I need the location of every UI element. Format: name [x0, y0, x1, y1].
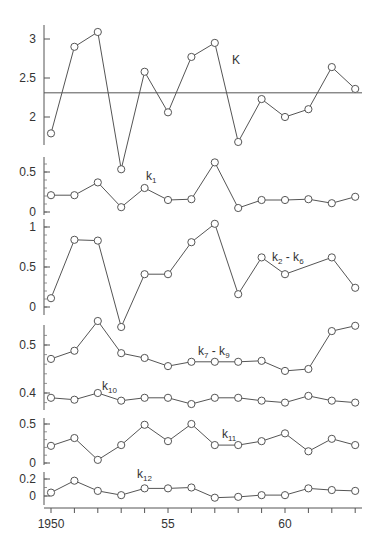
series-k10: k10: [47, 379, 358, 408]
data-point-marker: [258, 254, 265, 261]
y-tick-label: 0: [29, 456, 36, 470]
series-line: [51, 32, 355, 169]
data-point-marker: [235, 493, 242, 500]
data-point-marker: [188, 358, 195, 365]
data-point-marker: [281, 196, 288, 203]
data-point-marker: [258, 196, 265, 203]
data-point-marker: [118, 204, 125, 211]
data-point-marker: [164, 271, 171, 278]
data-point-marker: [71, 477, 78, 484]
data-point-marker: [305, 448, 312, 455]
series-label: K: [232, 53, 240, 67]
data-point-marker: [352, 322, 359, 329]
y-tick-label: 0.2: [19, 472, 36, 486]
data-point-marker: [164, 363, 171, 370]
data-point-marker: [281, 271, 288, 278]
data-point-marker: [71, 434, 78, 441]
data-point-marker: [352, 284, 359, 291]
data-point-marker: [94, 389, 101, 396]
panel-k2-k6: 00.51k2 - k6: [19, 219, 358, 331]
data-point-marker: [141, 394, 148, 401]
data-point-marker: [94, 487, 101, 494]
data-point-marker: [47, 355, 54, 362]
data-point-marker: [94, 237, 101, 244]
series-k12: k12: [47, 467, 358, 501]
data-point-marker: [47, 442, 54, 449]
panel-k11: 00.5k11: [19, 417, 358, 470]
data-point-marker: [352, 399, 359, 406]
data-point-marker: [164, 109, 171, 116]
y-tick-label: 0: [29, 205, 36, 219]
data-point-marker: [211, 358, 218, 365]
data-point-marker: [141, 68, 148, 75]
data-point-marker: [211, 394, 218, 401]
multi-panel-line-chart: 22.53K00.5k100.51k2 - k60.40.5k7 - k9k10…: [0, 0, 381, 556]
y-tick-label: 0.5: [19, 165, 36, 179]
data-point-marker: [352, 85, 359, 92]
data-point-marker: [305, 485, 312, 492]
data-point-marker: [118, 492, 125, 499]
data-point-marker: [235, 358, 242, 365]
series-k7-k9: k7 - k9: [47, 317, 358, 374]
data-point-marker: [164, 438, 171, 445]
data-point-marker: [281, 492, 288, 499]
y-tick-label: 2.5: [19, 71, 36, 85]
series-label: k10: [102, 379, 117, 395]
data-point-marker: [71, 43, 78, 50]
data-point-marker: [352, 441, 359, 448]
series-k11: k11: [47, 420, 358, 463]
data-point-marker: [47, 192, 54, 199]
data-point-marker: [47, 394, 54, 401]
data-point-marker: [328, 254, 335, 261]
data-point-marker: [94, 28, 101, 35]
data-point-marker: [188, 239, 195, 246]
data-point-marker: [328, 200, 335, 207]
data-point-marker: [352, 193, 359, 200]
data-point-marker: [188, 196, 195, 203]
data-point-marker: [71, 236, 78, 243]
data-point-marker: [164, 394, 171, 401]
data-point-marker: [305, 106, 312, 113]
series-k1: k1: [47, 159, 358, 212]
data-point-marker: [328, 486, 335, 493]
data-point-marker: [118, 441, 125, 448]
data-point-marker: [71, 396, 78, 403]
series-K: K: [47, 28, 358, 172]
data-point-marker: [118, 323, 125, 330]
data-point-marker: [118, 397, 125, 404]
data-point-marker: [164, 485, 171, 492]
data-point-marker: [328, 397, 335, 404]
data-point-marker: [211, 39, 218, 46]
data-point-marker: [305, 365, 312, 372]
series-label: k11: [222, 427, 237, 443]
series-label: k12: [137, 467, 152, 483]
data-point-marker: [118, 166, 125, 173]
data-point-marker: [281, 430, 288, 437]
series-k2-k6: k2 - k6: [47, 220, 358, 330]
data-point-marker: [94, 317, 101, 324]
data-point-marker: [328, 63, 335, 70]
data-point-marker: [235, 138, 242, 145]
data-point-marker: [352, 487, 359, 494]
data-point-marker: [235, 204, 242, 211]
data-point-marker: [281, 399, 288, 406]
x-tick-label: 60: [278, 517, 292, 531]
panel-k12: 00.2k12: [19, 467, 358, 505]
data-point-marker: [328, 327, 335, 334]
data-point-marker: [141, 271, 148, 278]
data-point-marker: [258, 357, 265, 364]
data-point-marker: [141, 354, 148, 361]
data-point-marker: [211, 159, 218, 166]
data-point-marker: [188, 484, 195, 491]
series-label: k7 - k9: [198, 344, 230, 360]
data-point-marker: [71, 347, 78, 354]
y-tick-label: 0: [29, 300, 36, 314]
y-tick-label: 1: [29, 220, 36, 234]
y-tick-label: 0.5: [19, 338, 36, 352]
data-point-marker: [281, 367, 288, 374]
data-point-marker: [118, 350, 125, 357]
panel-k1: 00.5k1: [19, 157, 358, 219]
data-point-marker: [71, 192, 78, 199]
panel-k7-k10: 0.40.5k7 - k9k10: [19, 317, 358, 410]
data-point-marker: [258, 397, 265, 404]
